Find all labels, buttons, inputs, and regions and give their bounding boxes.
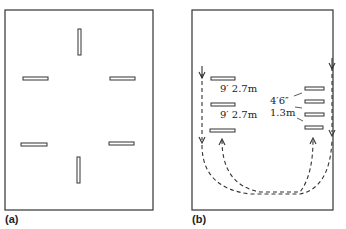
leader-line-3 [297, 118, 303, 121]
panel-b-frame [192, 10, 333, 210]
right-gap-imperial-label: 4′6″ [270, 95, 289, 106]
panel-b-label: (b) [192, 213, 206, 225]
panel-a-label: (a) [5, 213, 18, 225]
right-gap-metric-label: 1.3m [270, 107, 295, 118]
panel-b-left-marker-3 [210, 129, 235, 132]
panel-a-marker-bottom [77, 157, 80, 183]
panel-b-right-marker-2 [305, 100, 324, 103]
panel-a-marker-right-upper [110, 77, 135, 80]
panel-b-right-marker-1 [305, 87, 324, 90]
panel-a-marker-top [78, 29, 81, 55]
panel-b-left-marker-1 [211, 77, 235, 80]
panel-a-marker-left-lower [21, 143, 47, 146]
leader-line-2 [295, 107, 302, 108]
leader-line-1 [294, 93, 302, 96]
left-gap-label-1: 9′ 2.7m [220, 83, 257, 94]
panel-a-marker-left-upper [23, 77, 48, 80]
panel-b-left-marker-2 [211, 103, 235, 106]
panel-b-right-marker-4 [305, 126, 323, 129]
left-gap-label-2: 9′ 2.7m [220, 109, 257, 120]
panel-a-marker-right-lower [109, 142, 134, 145]
panel-b-right-marker-3 [305, 113, 324, 116]
